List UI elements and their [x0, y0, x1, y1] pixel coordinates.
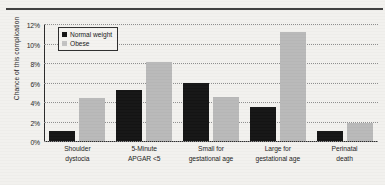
y-tick-label: 4% — [30, 100, 40, 107]
x-tick-label-line: death — [311, 154, 378, 164]
chart-figure: Chance of this complication 0%2%4%6%8%10… — [0, 0, 385, 185]
bar-normal-weight — [116, 90, 142, 141]
bar-normal-weight — [49, 131, 75, 141]
x-tick-label-line: gestational age — [178, 154, 245, 164]
x-tick-label-line: dystocia — [44, 154, 111, 164]
x-tick-label-line: APGAR <5 — [111, 154, 178, 164]
x-tick-label-line: gestational age — [244, 154, 311, 164]
bar-group — [311, 24, 378, 141]
y-axis-title: Chance of this complication — [13, 0, 20, 119]
y-tick-label: 10% — [27, 41, 40, 48]
legend-swatch-icon-normal-weight — [62, 32, 67, 37]
legend-item-normal-weight: Normal weight — [62, 30, 112, 39]
legend-label-normal-weight: Normal weight — [70, 30, 112, 39]
x-tick-label: Perinataldeath — [311, 144, 378, 163]
bar-normal-weight — [317, 131, 343, 141]
x-tick-label-line: 5-Minute — [111, 144, 178, 154]
bar-obese — [213, 97, 239, 141]
y-tick-label: 0% — [30, 139, 40, 146]
bar-obese — [146, 62, 172, 141]
bar-normal-weight — [250, 107, 276, 141]
x-tick-label: Small forgestational age — [178, 144, 245, 163]
page-top-rule — [6, 8, 383, 10]
x-tick-label-line: Small for — [178, 144, 245, 154]
gridline: 0% — [44, 141, 378, 142]
bar-group — [244, 24, 311, 141]
bar-group — [111, 24, 178, 141]
chart-legend: Normal weight Obese — [58, 27, 118, 51]
bar-obese — [347, 123, 373, 141]
y-tick-label: 6% — [30, 80, 40, 87]
x-tick-label: 5-MinuteAPGAR <5 — [111, 144, 178, 163]
legend-item-obese: Obese — [62, 39, 112, 48]
bar-group — [178, 24, 245, 141]
y-tick-label: 12% — [27, 22, 40, 29]
x-tick-label: Large forgestational age — [244, 144, 311, 163]
legend-label-obese: Obese — [70, 39, 89, 48]
x-tick-label-line: Large for — [244, 144, 311, 154]
bar-obese — [280, 32, 306, 141]
bar-normal-weight — [183, 83, 209, 141]
legend-swatch-icon-obese — [62, 41, 67, 46]
x-tick-label-line: Perinatal — [311, 144, 378, 154]
x-axis-labels: Shoulderdystocia5-MinuteAPGAR <5Small fo… — [44, 144, 378, 163]
x-tick-label: Shoulderdystocia — [44, 144, 111, 163]
x-tick-label-line: Shoulder — [44, 144, 111, 154]
bar-obese — [79, 98, 105, 141]
y-tick-label: 2% — [30, 119, 40, 126]
y-tick-label: 8% — [30, 61, 40, 68]
